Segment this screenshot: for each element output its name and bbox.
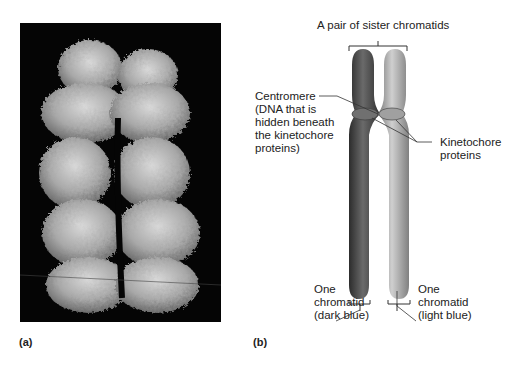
kinetochore-right (379, 108, 405, 120)
light-chromatid-label: One chromatid (light blue) (418, 283, 472, 322)
dark-chromatid-label: One chromatid (dark blue) (314, 283, 369, 322)
title-sister-chromatids: A pair of sister chromatids (317, 19, 449, 32)
dark-chromatid (349, 49, 380, 299)
centromere-label: Centromere (DNA that is hidden beneath t… (255, 90, 334, 155)
kinetochore-left (352, 108, 378, 120)
panel-b-label: (b) (253, 336, 267, 348)
light-chromatid (378, 49, 409, 299)
kinetochore-label: Kinetochore proteins (440, 136, 501, 162)
